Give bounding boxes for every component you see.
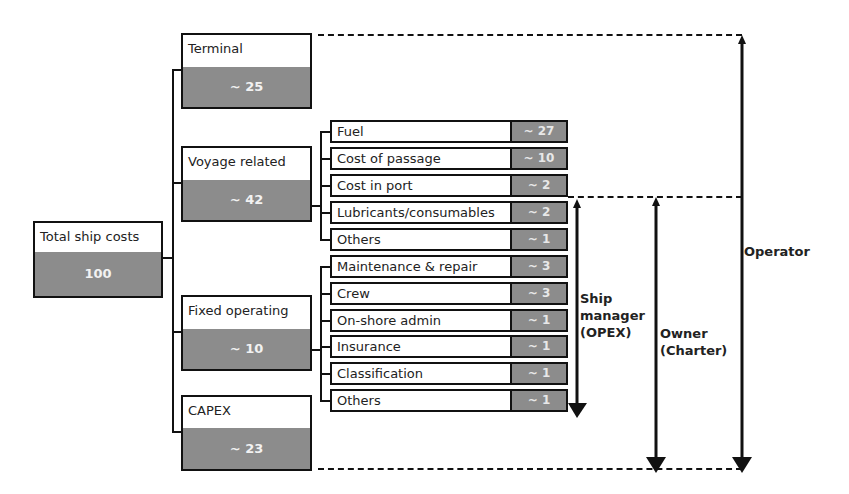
owner-label: Owner (Charter) [660,325,727,359]
ship-manager-label: Ship manager (OPEX) [580,290,645,341]
responsibility-arrows [0,0,849,494]
operator-label: Operator [744,243,810,260]
